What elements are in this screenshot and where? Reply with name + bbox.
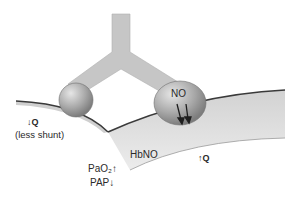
pao2-effect-label: PaO₂↑ xyxy=(88,163,117,174)
pap-effect-label: PAP↓ xyxy=(90,177,114,188)
left-flow-note: (less shunt) xyxy=(15,129,64,140)
y-linker xyxy=(68,14,178,96)
left-sphere xyxy=(59,83,93,117)
right-sphere-label: NO xyxy=(171,88,186,99)
left-flow-label: ↓Q xyxy=(27,117,39,128)
right-flow-label: ↑Q xyxy=(198,153,210,164)
diagram-canvas xyxy=(0,0,298,197)
hbno-label: HbNO xyxy=(130,149,158,160)
